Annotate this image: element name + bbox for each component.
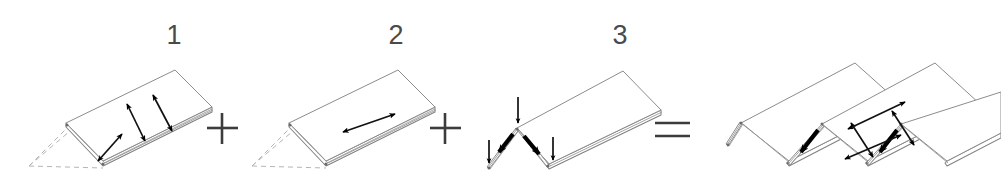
fold-decomposition-figure: 1 2 xyxy=(0,0,1001,178)
panel-3-group: 3 xyxy=(487,20,662,170)
panel-2-label: 2 xyxy=(388,20,403,50)
panel-result-group xyxy=(726,63,1001,166)
figure-canvas: 1 2 xyxy=(0,0,1001,178)
panel-1-group: 1 xyxy=(29,20,213,168)
operator-plus-1 xyxy=(207,113,238,144)
panel-2-group: 2 xyxy=(252,20,436,168)
panel-1-plate xyxy=(66,70,214,166)
panel-1-label: 1 xyxy=(166,20,181,50)
panel-3-label: 3 xyxy=(612,20,627,50)
panel-2-plate xyxy=(289,70,437,166)
panel-3-folded-plate xyxy=(487,71,662,170)
operator-plus-2 xyxy=(430,113,461,144)
operator-equals xyxy=(655,123,690,136)
